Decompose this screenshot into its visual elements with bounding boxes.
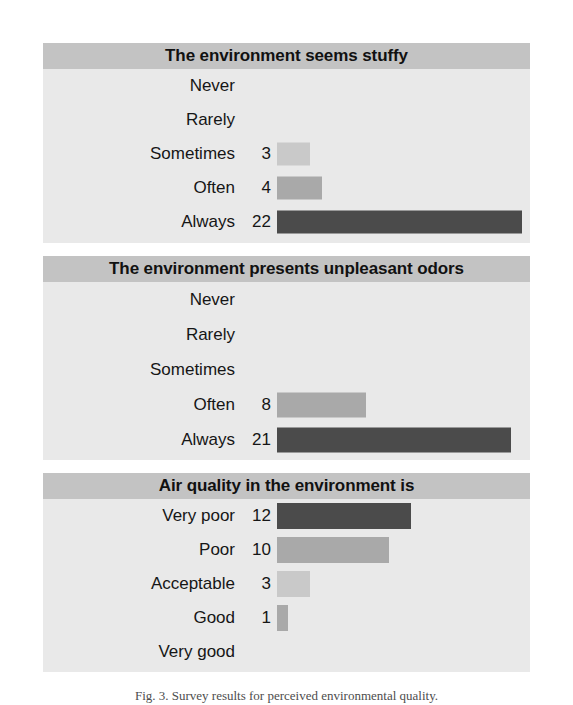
bar-track <box>277 103 530 137</box>
chart-panel: The environment seems stuffyNeverRarelyS… <box>43 43 530 243</box>
bar-value-label: 8 <box>241 395 277 415</box>
bar <box>277 503 411 529</box>
bar-track <box>277 205 530 239</box>
category-label: Very good <box>43 642 241 662</box>
chart-bar-row: Acceptable3 <box>43 567 530 601</box>
bar-track <box>277 352 530 387</box>
chart-bar-row: Always22 <box>43 205 530 239</box>
bar-value-label: 3 <box>241 574 277 594</box>
chart-rows: Very poor12Poor10Acceptable3Good1Very go… <box>43 499 530 669</box>
chart-bar-row: Rarely <box>43 103 530 137</box>
category-label: Acceptable <box>43 574 241 594</box>
chart-bar-row: Sometimes <box>43 352 530 387</box>
category-label: Very poor <box>43 506 241 526</box>
bar-value-label: 4 <box>241 178 277 198</box>
category-label: Good <box>43 608 241 628</box>
chart-rows: NeverRarelySometimesOften8Always21 <box>43 282 530 457</box>
chart-bar-row: Rarely <box>43 317 530 352</box>
category-label: Sometimes <box>43 360 241 380</box>
bar <box>277 211 522 234</box>
bar-value-label: 21 <box>241 430 277 450</box>
chart-title: Air quality in the environment is <box>43 473 530 499</box>
category-label: Never <box>43 290 241 310</box>
bar-track <box>277 422 530 457</box>
chart-title: The environment seems stuffy <box>43 43 530 69</box>
bar-track <box>277 567 530 601</box>
chart-rows: NeverRarelySometimes3Often4Always22 <box>43 69 530 239</box>
chart-bar-row: Never <box>43 282 530 317</box>
bar-track <box>277 601 530 635</box>
chart-bar-row: Often4 <box>43 171 530 205</box>
bar-track <box>277 387 530 422</box>
bar <box>277 392 366 417</box>
category-label: Often <box>43 395 241 415</box>
bar-value-label: 3 <box>241 144 277 164</box>
chart-title: The environment presents unpleasant odor… <box>43 256 530 282</box>
chart-panel: Air quality in the environment isVery po… <box>43 473 530 672</box>
bar-track <box>277 317 530 352</box>
bar-value-label: 12 <box>241 506 277 526</box>
category-label: Sometimes <box>43 144 241 164</box>
bar <box>277 537 389 563</box>
bar-value-label: 10 <box>241 540 277 560</box>
bar-track <box>277 137 530 171</box>
chart-bar-row: Poor10 <box>43 533 530 567</box>
chart-bar-row: Often8 <box>43 387 530 422</box>
category-label: Often <box>43 178 241 198</box>
category-label: Always <box>43 430 241 450</box>
chart-panel: The environment presents unpleasant odor… <box>43 256 530 460</box>
bar-track <box>277 533 530 567</box>
figure-page: The environment seems stuffyNeverRarelyS… <box>0 0 573 705</box>
chart-bar-row: Very poor12 <box>43 499 530 533</box>
bar-value-label: 1 <box>241 608 277 628</box>
chart-bar-row: Good1 <box>43 601 530 635</box>
bar-value-label: 22 <box>241 212 277 232</box>
chart-bar-row: Very good <box>43 635 530 669</box>
bar <box>277 605 288 631</box>
bar <box>277 177 322 200</box>
bar-track <box>277 69 530 103</box>
category-label: Always <box>43 212 241 232</box>
chart-bar-row: Always21 <box>43 422 530 457</box>
bar-track <box>277 282 530 317</box>
figure-caption: Fig. 3. Survey results for perceived env… <box>0 688 573 705</box>
category-label: Rarely <box>43 325 241 345</box>
category-label: Never <box>43 76 241 96</box>
bar-track <box>277 171 530 205</box>
category-label: Poor <box>43 540 241 560</box>
chart-bar-row: Sometimes3 <box>43 137 530 171</box>
chart-bar-row: Never <box>43 69 530 103</box>
bar <box>277 427 511 452</box>
bar <box>277 143 310 166</box>
bar <box>277 571 310 597</box>
bar-track <box>277 635 530 669</box>
category-label: Rarely <box>43 110 241 130</box>
bar-track <box>277 499 530 533</box>
